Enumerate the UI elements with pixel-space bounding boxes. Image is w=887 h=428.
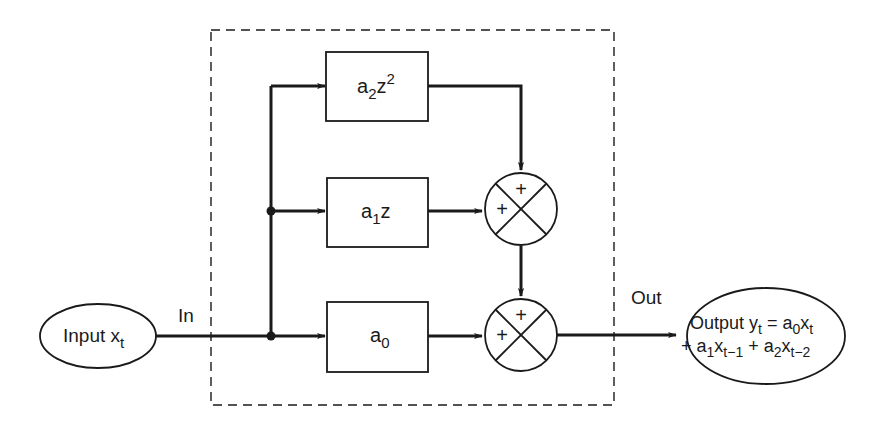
arrow-a2z2-to-sum (428, 86, 521, 170)
block-a0: a0 (327, 302, 428, 372)
input-node: Input xt (40, 304, 156, 368)
summing-junction-bottom: + + (485, 299, 557, 371)
in-label: In (178, 305, 194, 326)
block-a1z: a1z (327, 178, 428, 247)
svg-text:+: + (496, 198, 508, 220)
svg-text:+: + (515, 304, 527, 326)
filter-diagram: Input xt In a2z2 a1z a0 (0, 0, 887, 428)
block-a2z2: a2z2 (326, 52, 428, 121)
output-node: Output yt = a0xt + a1xt−1 + a2xt−2 (681, 288, 845, 384)
svg-text:+: + (515, 178, 527, 200)
summing-junction-top: + + (485, 173, 557, 245)
out-label: Out (631, 287, 662, 308)
svg-text:Input xt: Input xt (63, 325, 125, 351)
svg-text:+: + (496, 324, 508, 346)
